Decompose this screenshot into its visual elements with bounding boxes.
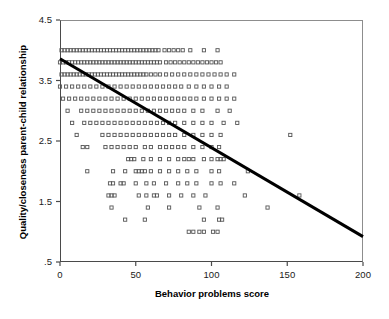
trendline (60, 59, 363, 237)
x-tick-label: 0 (45, 269, 75, 280)
data-points-layer (58, 49, 301, 234)
x-axis-title: Behavior problems score (60, 288, 364, 299)
scatter-plot-figure: .51.52.53.54.5050100150200 Quality/close… (0, 0, 389, 319)
x-tick-label: 100 (197, 269, 227, 280)
y-axis-title: Quality/closeness parent-child relations… (14, 22, 32, 262)
tick-marks (56, 20, 363, 266)
x-tick-label: 150 (272, 269, 302, 280)
x-tick-label: 50 (121, 269, 151, 280)
x-tick-label: 200 (348, 269, 378, 280)
